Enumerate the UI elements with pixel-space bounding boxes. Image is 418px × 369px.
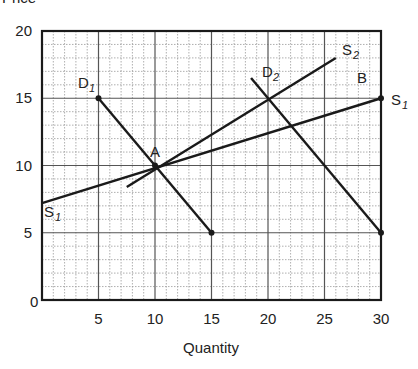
origin-label: 0: [30, 293, 38, 310]
x-axis-label: Quantity: [183, 339, 239, 356]
y-tick-labels: 5101520: [15, 22, 32, 241]
x-tick-label: 20: [260, 310, 277, 327]
y-axis-label: Price: [2, 0, 36, 6]
d1-endpoint: [96, 95, 102, 101]
svg-text:2: 2: [272, 71, 279, 83]
x-tick-label: 25: [316, 310, 333, 327]
svg-text:2: 2: [352, 49, 359, 61]
svg-text:1: 1: [89, 82, 95, 94]
d2-label: D 2: [262, 63, 279, 83]
point-b-label: B: [357, 69, 367, 86]
x-tick-label: 10: [147, 310, 164, 327]
d2-line: [251, 78, 381, 233]
svg-text:1: 1: [402, 99, 408, 111]
svg-text:1: 1: [55, 211, 61, 223]
s1-right-label: S 1: [391, 91, 408, 111]
d1-label: D 1: [78, 74, 95, 94]
svg-text:D: D: [262, 63, 273, 80]
y-tick-label: 15: [15, 89, 32, 106]
svg-text:S: S: [342, 41, 352, 58]
y-tick-label: 10: [15, 157, 32, 174]
supply-demand-chart: 51015202530 5101520 Price 0 Quantity A B…: [0, 0, 418, 369]
s2-label: S 2: [342, 41, 359, 61]
x-tick-labels: 51015202530: [94, 310, 389, 327]
point-a-dot: [152, 163, 158, 169]
point-a-label: A: [150, 143, 160, 160]
d2-endpoint: [378, 230, 384, 236]
d1-endpoint: [209, 230, 215, 236]
y-tick-label: 5: [24, 224, 32, 241]
s1-left-label: S 1: [44, 203, 61, 223]
y-tick-label: 20: [15, 22, 32, 39]
x-tick-label: 30: [373, 310, 390, 327]
x-tick-label: 15: [203, 310, 220, 327]
svg-text:S: S: [391, 91, 401, 108]
x-tick-label: 5: [94, 310, 102, 327]
s1-endpoint: [378, 95, 384, 101]
svg-text:S: S: [44, 203, 54, 220]
svg-text:D: D: [78, 74, 89, 91]
